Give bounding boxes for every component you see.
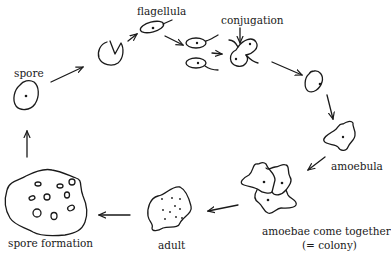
conjugation-cell	[229, 28, 258, 66]
arrow-icon	[208, 205, 238, 211]
label-amoebula: amoebula	[331, 161, 383, 172]
zygote-cell	[305, 71, 322, 92]
amoebula-cell	[324, 121, 355, 150]
flagellula-cell	[139, 19, 172, 35]
adult-cell	[148, 187, 191, 231]
arrow-icon	[327, 95, 333, 119]
label-adult: adult	[158, 240, 185, 251]
spore-formation-cell	[5, 169, 86, 235]
arrow-icon	[212, 53, 222, 54]
arrow-icon	[51, 67, 83, 82]
arrow-icon	[272, 62, 302, 75]
label-conjugation: conjugation	[221, 15, 284, 26]
label-flagellula: flagellula	[137, 6, 186, 17]
label-colony-sub: (= colony)	[302, 240, 357, 251]
opening-spore-cell	[98, 41, 123, 65]
arrow-icon	[165, 36, 183, 45]
label-spore-formation: spore formation	[8, 238, 93, 249]
spore-cell	[14, 81, 38, 110]
label-colony: amoebae come together	[262, 226, 391, 237]
colony-cells	[241, 162, 296, 213]
arrow-icon	[308, 157, 325, 170]
label-spore: spore	[14, 68, 44, 79]
arrow-icon	[128, 34, 137, 41]
